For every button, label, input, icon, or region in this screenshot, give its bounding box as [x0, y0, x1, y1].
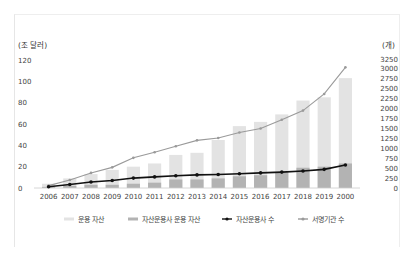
- left-axis-tick: 20: [18, 163, 27, 171]
- right-axis-tick: 1250: [380, 135, 398, 143]
- x-axis-tick: 2000: [336, 193, 354, 201]
- x-axis-tick: 2006: [40, 193, 58, 201]
- right-axis-tick: 2500: [380, 85, 398, 93]
- left-axis-tick: 0: [18, 185, 22, 193]
- line-marker: [344, 163, 348, 167]
- line-marker: [259, 127, 262, 130]
- legend-label: 서명기관 수: [312, 215, 345, 224]
- line-marker: [195, 173, 199, 177]
- bar-manager-aum: [233, 176, 246, 188]
- line-marker: [132, 176, 136, 180]
- line-marker: [196, 139, 199, 142]
- line-marker: [259, 171, 263, 175]
- line-marker: [69, 179, 72, 182]
- left-axis-tick: 40: [18, 142, 27, 150]
- line-marker: [132, 157, 135, 160]
- line-marker: [90, 172, 93, 175]
- left-axis-tick: 80: [18, 99, 27, 107]
- line-marker: [153, 151, 156, 154]
- line-marker: [47, 185, 51, 189]
- bar-manager-aum: [254, 175, 267, 188]
- x-axis-tick: 2018: [294, 193, 312, 201]
- combo-chart: (조 달러)(개)0204060801001200250500750100012…: [0, 0, 412, 259]
- x-axis-tick: 2013: [188, 193, 206, 201]
- right-axis-tick: 500: [385, 165, 398, 173]
- right-axis-tick: 2250: [380, 95, 398, 103]
- x-axis-tick: 2016: [252, 193, 270, 201]
- right-axis-tick: 250: [385, 175, 398, 183]
- bar-manager-aum: [169, 179, 182, 188]
- chart-container: (조 달러)(개)0204060801001200250500750100012…: [0, 0, 412, 259]
- line-marker: [216, 173, 220, 177]
- left-axis-tick: 60: [18, 121, 27, 129]
- line-marker: [238, 131, 241, 134]
- bar-manager-aum: [212, 178, 225, 188]
- bar-manager-aum: [84, 185, 97, 188]
- right-axis-tick: 750: [385, 155, 398, 163]
- left-axis-tick: 100: [18, 78, 31, 86]
- legend-marker: [301, 217, 304, 220]
- x-axis-tick: 2012: [167, 193, 185, 201]
- line-marker: [301, 169, 305, 173]
- bar-manager-aum: [127, 184, 140, 188]
- right-axis-tick: 0: [394, 185, 398, 193]
- x-axis-tick: 2015: [230, 193, 248, 201]
- bar-manager-aum: [148, 183, 161, 188]
- right-axis-tick: 2000: [380, 105, 398, 113]
- right-axis-unit: (개): [382, 40, 395, 50]
- left-axis-tick: 120: [18, 57, 31, 65]
- x-axis-tick: 2014: [209, 193, 227, 201]
- line-marker: [217, 137, 220, 140]
- line-marker: [174, 174, 178, 178]
- legend-label: 운용 자산: [78, 215, 105, 224]
- right-axis-tick: 3000: [380, 65, 398, 73]
- line-marker: [281, 118, 284, 121]
- right-axis-tick: 2750: [380, 75, 398, 83]
- left-axis-unit: (조 달러): [18, 41, 47, 50]
- bar-manager-aum: [275, 172, 288, 188]
- line-marker: [68, 183, 72, 187]
- x-axis-tick: 2007: [61, 193, 79, 201]
- legend-label: 자산운용사 운용 자산: [142, 215, 201, 224]
- line-marker: [111, 166, 114, 169]
- line-marker: [175, 145, 178, 148]
- bar-manager-aum: [190, 179, 203, 188]
- x-axis-tick: 2011: [146, 193, 164, 201]
- right-axis-tick: 1000: [380, 145, 398, 153]
- line-marker: [280, 170, 284, 174]
- right-axis-tick: 1750: [380, 115, 398, 123]
- x-axis-tick: 2017: [273, 193, 291, 201]
- line-marker: [302, 109, 305, 112]
- legend-label: 자산운용사 수: [236, 215, 275, 224]
- bar-manager-aum: [106, 185, 119, 188]
- x-axis-tick: 2008: [82, 193, 100, 201]
- x-axis-tick: 2019: [315, 193, 333, 201]
- x-axis-tick: 2010: [124, 193, 142, 201]
- line-marker: [89, 180, 93, 184]
- line-marker: [323, 93, 326, 96]
- legend-marker: [225, 217, 228, 220]
- line-marker: [344, 66, 347, 69]
- bar-manager-aum: [339, 163, 352, 188]
- line-marker: [153, 175, 157, 179]
- line-marker: [322, 168, 326, 172]
- x-axis-tick: 2009: [103, 193, 121, 201]
- line-marker: [110, 179, 114, 183]
- right-axis-tick: 1500: [380, 125, 398, 133]
- right-axis-tick: 3250: [380, 56, 398, 64]
- line-marker: [238, 172, 242, 176]
